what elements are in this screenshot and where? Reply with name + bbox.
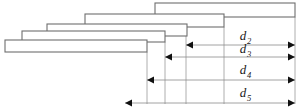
dimension-d4: d 4 (147, 62, 295, 84)
dimension-d4-label: d (240, 62, 247, 77)
dimension-d5-label: d (240, 85, 247, 100)
diagram-canvas: d 2 d 3 d 4 d 5 (0, 0, 302, 112)
dimension-d3-arrow-left (165, 54, 172, 61)
dimension-d3-label: d (240, 41, 247, 56)
dimension-d4-arrow-left (147, 77, 154, 84)
dimension-d3-subscript: 3 (246, 49, 251, 59)
dimension-d5-arrow-left (125, 100, 132, 107)
dimension-d5-arrow-right (288, 100, 295, 107)
dimension-d3-arrow-right (288, 54, 295, 61)
dimension-d5: d 5 (125, 85, 295, 107)
dimension-d4-subscript: 4 (247, 70, 252, 80)
bar-5 (5, 40, 147, 52)
dimension-d2-subscript: 2 (247, 36, 252, 46)
dimension-diagram: d 2 d 3 d 4 d 5 (0, 0, 302, 112)
dimension-d3: d 3 (165, 41, 295, 61)
dimension-d4-arrow-right (288, 77, 295, 84)
dimension-d5-subscript: 5 (247, 93, 251, 103)
dimension-d2-arrow-right (288, 42, 295, 49)
dimension-d2-arrow-left (186, 42, 193, 49)
